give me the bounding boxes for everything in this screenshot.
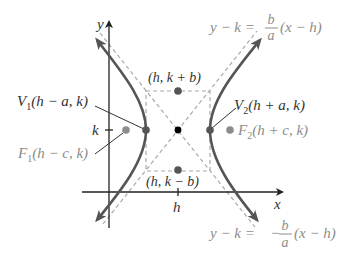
svg-text:(x − h): (x − h) xyxy=(294,225,336,242)
v2-leader xyxy=(212,108,236,128)
left-branch-lower xyxy=(97,130,146,220)
focus2-label: F2(h + c, k) xyxy=(237,122,308,141)
h-tick-label: h xyxy=(173,199,181,215)
left-branch-upper xyxy=(97,40,146,130)
vertex1-label: V1(h − a, k) xyxy=(17,93,88,112)
top-covertex-label: (h, k + b) xyxy=(148,70,201,86)
hyperbola-diagram: y x h k (h, k + b) (h, k − b) V1(h − a, … xyxy=(0,0,348,258)
svg-text:a: a xyxy=(268,28,275,43)
x-axis-label: x xyxy=(273,196,281,212)
bottom-covertex-point xyxy=(174,166,182,174)
svg-text:a: a xyxy=(282,235,289,250)
focus1-point xyxy=(122,126,130,134)
k-tick-label: k xyxy=(92,122,99,138)
right-branch-upper xyxy=(210,40,260,130)
bottom-covertex-label: (h, k − b) xyxy=(146,174,199,190)
svg-text:b: b xyxy=(282,218,289,233)
vertex2-point xyxy=(206,126,214,134)
upper-asymptote-equation: y − k = b a (x − h) xyxy=(208,12,322,43)
v1-leader xyxy=(95,106,144,129)
center-point xyxy=(175,127,182,134)
svg-text:−: − xyxy=(271,225,279,241)
focus2-point xyxy=(226,126,234,134)
lower-asymptote-equation: y − k = − b a (x − h) xyxy=(208,218,336,250)
vertex2-label: V2(h + a, k) xyxy=(234,97,305,116)
vertex1-point xyxy=(142,126,150,134)
top-covertex-point xyxy=(174,87,182,95)
right-branch-lower xyxy=(210,130,257,220)
focus1-label: F1(h − c, k) xyxy=(17,145,88,164)
svg-text:y − k =: y − k = xyxy=(208,19,255,35)
y-axis-label: y xyxy=(95,16,104,32)
svg-text:y − k =: y − k = xyxy=(208,225,255,241)
svg-text:b: b xyxy=(268,12,275,27)
svg-text:(x − h): (x − h) xyxy=(280,19,322,36)
